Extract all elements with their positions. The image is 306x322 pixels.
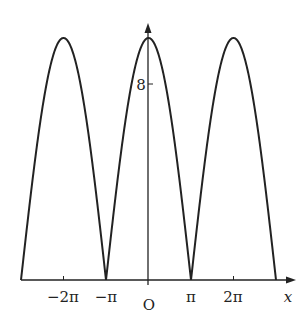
x-tick-label-2pi: 2π (223, 288, 243, 306)
x-tick-label-pi: π (186, 288, 196, 306)
y-axis-arrow-icon (145, 23, 152, 33)
chart: −2π −π O π 2π x 8 (0, 0, 306, 322)
origin-label: O (143, 296, 155, 314)
y-tick-label-8: 8 (136, 76, 146, 94)
x-tick-label-negpi: −π (95, 288, 118, 306)
x-axis-label: x (284, 288, 293, 306)
x-tick-label-neg2pi: −2π (47, 288, 79, 306)
x-axis-arrow-icon (286, 277, 296, 284)
